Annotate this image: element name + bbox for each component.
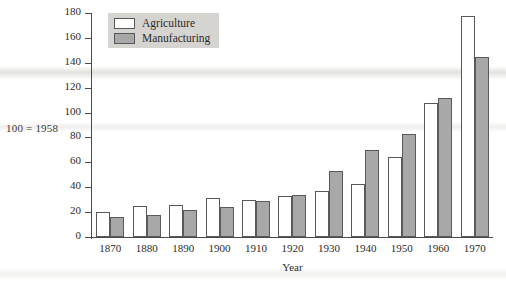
bar-group [274, 13, 310, 237]
x-axis-tick-labels: 1870188018901900191019201930194019501960… [92, 242, 493, 254]
bar-manufacturing-1910 [256, 201, 270, 237]
y-axis-tick: 140 [85, 63, 91, 64]
x-axis-tick-label: 1950 [384, 242, 420, 254]
x-axis-tick-label: 1870 [92, 242, 128, 254]
bar-group [311, 13, 347, 237]
x-axis-tick-label: 1970 [457, 242, 493, 254]
y-axis-tick: 160 [85, 38, 91, 39]
bar-manufacturing-1960 [438, 98, 452, 237]
bar-group [420, 13, 456, 237]
y-axis-tick: 20 [85, 212, 91, 213]
y-axis-tick: 100 [85, 113, 91, 114]
x-axis-tick-label: 1910 [238, 242, 274, 254]
bar-manufacturing-1900 [220, 207, 234, 237]
bar-manufacturing-1930 [329, 171, 343, 237]
bar-agriculture-1960 [424, 103, 438, 237]
legend-entry-manufacturing: Manufacturing [114, 32, 210, 44]
legend-entry-label: Agriculture [142, 17, 195, 29]
y-axis-tick-label: 40 [70, 179, 81, 191]
bar-agriculture-1930 [315, 191, 329, 237]
x-axis-tick-label: 1890 [165, 242, 201, 254]
bar-manufacturing-1890 [183, 210, 197, 237]
x-axis-tick-label: 1900 [201, 242, 237, 254]
y-axis-tick: 60 [85, 162, 91, 163]
bar-manufacturing-1970 [475, 57, 489, 237]
y-axis-tick-label: 20 [70, 204, 81, 216]
y-axis-tick-label: 100 [65, 105, 82, 117]
bar-agriculture-1910 [242, 200, 256, 237]
bar-agriculture-1970 [461, 16, 475, 238]
y-axis-tick: 0 [85, 237, 91, 238]
base-year-note: 100 = 1958 [6, 122, 58, 134]
x-axis-tick-label: 1940 [347, 242, 383, 254]
x-axis-tick-label: 1880 [128, 242, 164, 254]
bar-group [238, 13, 274, 237]
y-axis-tick-label: 180 [65, 5, 82, 17]
chart-legend: Agriculture Manufacturing [108, 13, 219, 48]
y-axis-tick-label: 60 [70, 154, 81, 166]
bar-group [457, 13, 493, 237]
y-axis-tick-label: 80 [70, 129, 81, 141]
bar-agriculture-1920 [278, 196, 292, 237]
bar-agriculture-1940 [351, 184, 365, 238]
x-axis-tick-label: 1920 [274, 242, 310, 254]
bar-agriculture-1880 [133, 206, 147, 237]
y-axis-tick: 180 [85, 13, 91, 14]
y-axis-tick: 120 [85, 88, 91, 89]
bar-agriculture-1950 [388, 157, 402, 237]
y-axis-tick: 40 [85, 187, 91, 188]
bar-agriculture-1890 [169, 205, 183, 237]
x-axis-tick-label: 1960 [420, 242, 456, 254]
white-square-icon [114, 18, 135, 29]
legend-entry-label: Manufacturing [142, 32, 210, 44]
y-axis-tick-label: 160 [65, 30, 82, 42]
bar-agriculture-1870 [96, 212, 110, 237]
bar-manufacturing-1920 [292, 195, 306, 237]
bar-manufacturing-1880 [147, 215, 161, 237]
legend-entry-agriculture: Agriculture [114, 17, 210, 29]
figure-container: 100 = 1958 020406080100120140160180 1870… [0, 0, 506, 292]
bar-manufacturing-1950 [402, 134, 416, 237]
bar-manufacturing-1870 [110, 217, 124, 237]
gray-square-icon [114, 33, 135, 44]
y-axis-tick: 80 [85, 137, 91, 138]
x-axis-line [91, 237, 493, 238]
y-axis-tick-label: 120 [65, 80, 82, 92]
x-axis-title: Year [92, 261, 493, 273]
bar-agriculture-1900 [206, 198, 220, 237]
y-axis-tick-label: 140 [65, 55, 82, 67]
x-axis-tick-label: 1930 [311, 242, 347, 254]
bar-manufacturing-1940 [365, 150, 379, 237]
bar-group [384, 13, 420, 237]
bar-group [347, 13, 383, 237]
y-axis-tick-label: 0 [76, 229, 82, 241]
